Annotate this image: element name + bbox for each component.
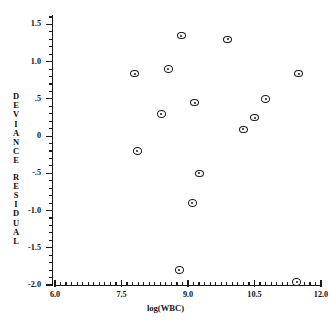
- y-axis-minor-tick: [49, 262, 53, 263]
- y-axis-minor-tick: [49, 46, 53, 47]
- x-axis-major-tick: [54, 280, 55, 287]
- x-axis-major-tick: [121, 280, 122, 287]
- y-axis-minor-tick: [49, 128, 53, 129]
- x-axis-minor-tick: [304, 282, 305, 286]
- y-axis-minor-tick: [49, 180, 53, 181]
- data-point-marker: [292, 278, 301, 286]
- y-axis-tick-label: -1.5: [1, 243, 41, 252]
- y-axis-tick-label: .5: [1, 94, 41, 103]
- x-axis-minor-tick: [115, 282, 116, 286]
- data-point-marker: [250, 114, 259, 122]
- y-axis-title-char: E: [13, 156, 19, 165]
- x-axis-minor-tick: [176, 282, 177, 286]
- x-axis-minor-tick: [204, 282, 205, 286]
- y-axis-minor-tick: [49, 158, 53, 159]
- y-axis-minor-tick: [49, 113, 53, 114]
- x-axis-minor-tick: [248, 282, 249, 286]
- y-axis-minor-tick: [49, 39, 53, 40]
- data-point-marker: [188, 199, 197, 207]
- y-axis-major-tick: [46, 284, 53, 285]
- x-axis-tick-label: 7.5: [102, 290, 142, 299]
- x-axis-minor-tick: [93, 282, 94, 286]
- y-axis-major-tick: [46, 24, 53, 25]
- x-axis-minor-tick: [149, 282, 150, 286]
- y-axis-minor-tick: [49, 143, 53, 144]
- x-axis-minor-tick: [265, 282, 266, 286]
- data-point-marker: [190, 99, 199, 107]
- y-axis-major-tick: [46, 98, 53, 99]
- y-axis-major-tick: [46, 136, 53, 137]
- x-axis-minor-tick: [104, 282, 105, 286]
- x-axis-major-tick: [254, 280, 255, 287]
- x-axis-minor-tick: [182, 282, 183, 286]
- x-axis-minor-tick: [315, 282, 316, 286]
- y-axis-minor-tick: [49, 150, 53, 151]
- y-axis-minor-tick: [49, 203, 53, 204]
- y-axis-minor-tick: [49, 188, 53, 189]
- data-point-marker: [130, 70, 139, 78]
- y-axis-minor-tick: [49, 54, 53, 55]
- y-axis-minor-tick: [49, 195, 53, 196]
- x-axis-minor-tick: [88, 282, 89, 286]
- y-axis-minor-tick: [49, 121, 53, 122]
- y-axis-tick-label: -2.0: [1, 280, 41, 289]
- y-axis-minor-tick: [49, 277, 53, 278]
- x-axis-tick-label: 9.0: [168, 290, 208, 299]
- x-axis-minor-tick: [287, 282, 288, 286]
- x-axis-minor-tick: [126, 282, 127, 286]
- data-point-marker: [177, 32, 186, 40]
- x-axis-tick-label: 10.5: [235, 290, 275, 299]
- y-axis-major-tick: [46, 210, 53, 211]
- x-axis-minor-tick: [259, 282, 260, 286]
- x-axis-minor-tick: [71, 282, 72, 286]
- y-axis-minor-tick: [49, 83, 53, 84]
- x-axis-minor-tick: [65, 282, 66, 286]
- x-axis-minor-tick: [309, 282, 310, 286]
- y-axis-tick-label: 1.0: [1, 57, 41, 66]
- data-point-marker: [175, 266, 184, 274]
- x-axis-title: log(WBC): [0, 303, 331, 313]
- data-point-marker: [164, 65, 173, 73]
- x-axis-minor-tick: [232, 282, 233, 286]
- x-axis-minor-tick: [226, 282, 227, 286]
- y-axis-tick-label: 1.5: [1, 19, 41, 28]
- x-axis-minor-tick: [60, 282, 61, 286]
- y-axis-minor-tick: [49, 217, 53, 218]
- y-axis-minor-tick: [49, 91, 53, 92]
- scatter-plot: DEVIANCERESIDUAL 1.51.0.50-.5-1.0-1.5-2.…: [0, 0, 331, 323]
- data-point-marker: [239, 126, 248, 134]
- data-point-marker: [133, 147, 142, 155]
- y-axis-tick-label: 0: [1, 131, 41, 140]
- y-axis-minor-tick: [49, 31, 53, 32]
- y-axis-minor-tick: [49, 225, 53, 226]
- x-axis-tick-label: 6.0: [35, 290, 75, 299]
- x-axis-minor-tick: [237, 282, 238, 286]
- y-axis-minor-tick: [49, 165, 53, 166]
- x-axis-minor-tick: [82, 282, 83, 286]
- x-axis-minor-tick: [110, 282, 111, 286]
- x-axis-minor-tick: [210, 282, 211, 286]
- x-axis-minor-tick: [276, 282, 277, 286]
- data-point-marker: [223, 36, 232, 44]
- y-axis-minor-tick: [49, 69, 53, 70]
- x-axis-minor-tick: [198, 282, 199, 286]
- x-axis-minor-tick: [77, 282, 78, 286]
- y-axis-minor-tick: [49, 16, 53, 17]
- y-axis-major-tick: [46, 247, 53, 248]
- x-axis-minor-tick: [282, 282, 283, 286]
- x-axis-minor-tick: [171, 282, 172, 286]
- x-axis-minor-tick: [271, 282, 272, 286]
- data-point-marker: [157, 110, 166, 118]
- y-axis-minor-tick: [49, 240, 53, 241]
- data-point-marker: [261, 95, 270, 103]
- x-axis-minor-tick: [243, 282, 244, 286]
- x-axis-minor-tick: [138, 282, 139, 286]
- x-axis-major-tick: [320, 280, 321, 287]
- y-axis-minor-tick: [49, 270, 53, 271]
- y-axis-minor-tick: [49, 255, 53, 256]
- y-axis-major-tick: [46, 173, 53, 174]
- y-axis-minor-tick: [49, 232, 53, 233]
- x-axis-minor-tick: [143, 282, 144, 286]
- x-axis-major-tick: [187, 280, 188, 287]
- x-axis-minor-tick: [132, 282, 133, 286]
